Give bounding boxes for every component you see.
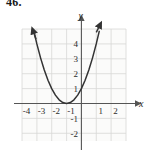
x-tick-label-2: 2 (113, 106, 118, 116)
x-tick-label-1: 1 (99, 106, 104, 116)
y-tick-label--1: -1 (71, 114, 79, 124)
y-tick-label--2: -2 (71, 129, 79, 139)
x-tick-label--3: -3 (38, 106, 46, 116)
problem-number-label: 46. (6, 0, 22, 8)
y-tick-label-2: 2 (74, 69, 79, 79)
x-tick-label--2: -2 (52, 106, 60, 116)
x-tick-label--4: -4 (23, 106, 31, 116)
coordinate-graph-figure: x y -4 -3 -2 -1 1 2 4 3 2 1 -1 -2 (0, 10, 150, 154)
graph-svg: x y -4 -3 -2 -1 1 2 4 3 2 1 -1 -2 (0, 10, 150, 154)
figure-screenshot: 46. (0, 0, 150, 154)
y-tick-label-1: 1 (74, 84, 79, 94)
x-axis-label: x (138, 98, 144, 109)
y-tick-label-4: 4 (74, 39, 79, 49)
y-tick-label-3: 3 (74, 54, 79, 64)
y-axis-label: y (78, 10, 84, 21)
